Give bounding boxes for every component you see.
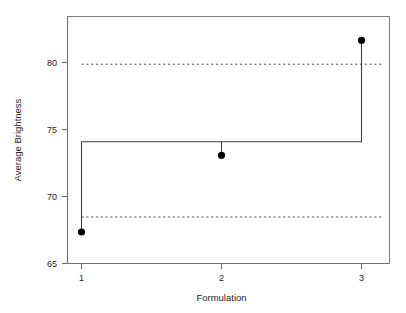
data-point-formulation-1[interactable] [78, 228, 85, 235]
x-tick-label-2: 2 [219, 273, 224, 283]
chart-container: 80 75 70 65 1 2 3 [0, 0, 406, 313]
y-tick-label-80: 80 [47, 58, 57, 68]
x-tick-label-1: 1 [79, 273, 84, 283]
y-axis-title: Average Brightness [12, 98, 23, 181]
x-axis-title: Formulation [196, 292, 246, 303]
data-point-formulation-3[interactable] [358, 37, 365, 44]
y-tick-label-65: 65 [47, 259, 57, 269]
data-point-formulation-2[interactable] [218, 152, 225, 159]
average-brightness-chart: 80 75 70 65 1 2 3 [0, 0, 406, 313]
chart-background [0, 0, 406, 313]
y-tick-label-75: 75 [47, 125, 57, 135]
y-tick-label-70: 70 [47, 192, 57, 202]
x-tick-label-3: 3 [359, 273, 364, 283]
